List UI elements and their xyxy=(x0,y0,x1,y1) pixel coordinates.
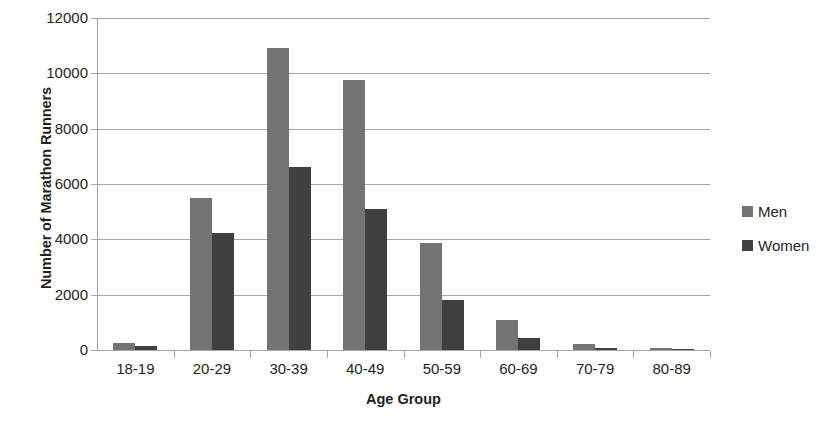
bar-women-18-19 xyxy=(135,346,157,350)
chart-legend: MenWomen xyxy=(742,194,830,262)
y-axis-tick-label: 0 xyxy=(26,342,88,357)
x-axis-tick-label: 30-39 xyxy=(250,360,327,377)
y-axis-tick-label: 8000 xyxy=(26,121,88,136)
gridline xyxy=(97,295,710,296)
y-axis-tick-labels: 020004000600080001000012000 xyxy=(22,0,88,426)
x-axis-tickmark xyxy=(174,351,175,358)
x-axis-tickmark xyxy=(633,351,634,358)
plot-area xyxy=(97,18,710,350)
legend-item-men: Men xyxy=(742,194,830,228)
gridline xyxy=(97,73,710,74)
x-axis-tick-label: 80-89 xyxy=(633,360,710,377)
bar-men-18-19 xyxy=(113,343,135,350)
legend-swatch-icon xyxy=(742,240,753,251)
x-axis-tickmark xyxy=(250,351,251,358)
bar-women-70-79 xyxy=(595,348,617,350)
x-axis-tick-label: 18-19 xyxy=(97,360,174,377)
gridline xyxy=(97,129,710,130)
bar-women-80-89 xyxy=(672,349,694,350)
y-axis-tick-label: 10000 xyxy=(26,65,88,80)
bar-men-60-69 xyxy=(496,320,518,350)
gridline xyxy=(97,18,710,19)
y-axis-tick-label: 12000 xyxy=(26,10,88,25)
x-axis-tickmark xyxy=(557,351,558,358)
gridline xyxy=(97,350,710,351)
x-axis-tickmark xyxy=(404,351,405,358)
legend-item-women: Women xyxy=(742,228,830,262)
x-axis-title: Age Group xyxy=(97,391,710,407)
bar-men-70-79 xyxy=(573,344,595,350)
legend-swatch-icon xyxy=(742,206,753,217)
legend-label: Men xyxy=(758,203,787,220)
bar-men-30-39 xyxy=(267,48,289,350)
bar-men-40-49 xyxy=(343,80,365,350)
marathon-runners-bar-chart: Number of Marathon Runners 0200040006000… xyxy=(0,0,833,426)
y-axis-tick-label: 2000 xyxy=(26,287,88,302)
y-axis-tick-label: 4000 xyxy=(26,231,88,246)
x-axis-tickmark xyxy=(710,351,711,358)
x-axis-tickmark xyxy=(480,351,481,358)
bar-women-20-29 xyxy=(212,233,234,350)
gridline xyxy=(97,184,710,185)
bar-men-80-89 xyxy=(650,348,672,350)
x-axis-tick-label: 50-59 xyxy=(404,360,481,377)
bar-men-50-59 xyxy=(420,243,442,350)
gridline xyxy=(97,239,710,240)
x-axis-tick-labels: 18-1920-2930-3940-4950-5960-6970-7980-89 xyxy=(97,360,710,382)
y-axis-tick-label: 6000 xyxy=(26,176,88,191)
x-axis-tick-label: 70-79 xyxy=(557,360,634,377)
x-axis-tick-label: 40-49 xyxy=(327,360,404,377)
bar-men-20-29 xyxy=(190,198,212,350)
bar-women-60-69 xyxy=(518,338,540,350)
bar-women-40-49 xyxy=(365,209,387,350)
x-axis-tick-label: 60-69 xyxy=(480,360,557,377)
bar-women-50-59 xyxy=(442,300,464,350)
bar-women-30-39 xyxy=(289,167,311,350)
legend-label: Women xyxy=(758,237,809,254)
x-axis-tickmark xyxy=(327,351,328,358)
x-axis-tick-label: 20-29 xyxy=(174,360,251,377)
